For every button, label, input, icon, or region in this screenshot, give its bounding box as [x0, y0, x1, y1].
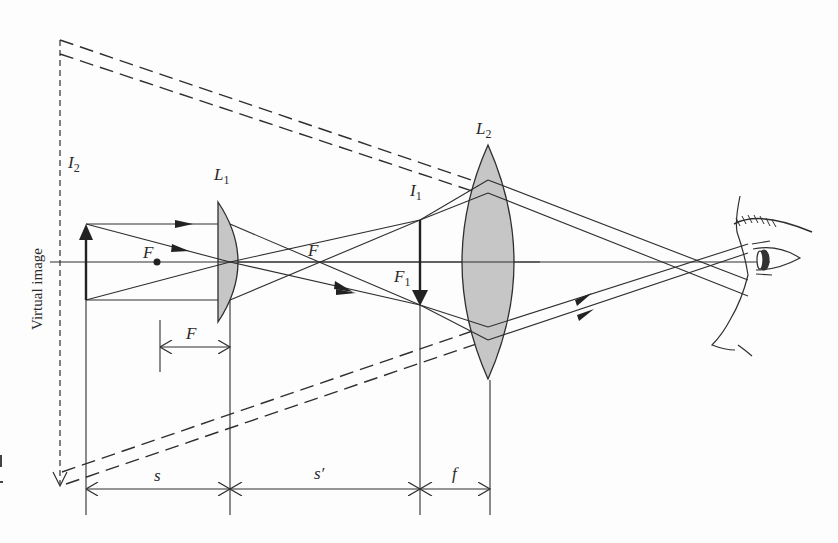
label-L2: L2	[476, 120, 491, 140]
label-F-mid: F	[308, 242, 318, 259]
eye-profile	[712, 196, 812, 356]
dashed-ray-bottom-1	[62, 326, 487, 472]
label-I2-sub: 2	[74, 161, 80, 175]
dashed-ray-top-1	[60, 40, 480, 183]
label-F1-main: F	[394, 267, 404, 286]
label-F1: F1	[394, 268, 410, 288]
label-I1-sub: 1	[416, 189, 422, 203]
ray-through-F	[86, 224, 230, 262]
virtual-image-label: Virtual image	[29, 248, 46, 330]
dashed-ray-top-2	[60, 54, 475, 192]
microscope-diagram: Virtual image I2 L1 L2 I1 F1 F F F s s′ …	[0, 0, 838, 543]
label-I2: I2	[68, 154, 80, 174]
label-F-dim: F	[186, 325, 196, 342]
object-arrowhead	[79, 224, 93, 240]
label-F-left: F	[143, 244, 153, 261]
label-L2-sub: 2	[485, 127, 491, 141]
label-F1-sub: 1	[404, 275, 410, 289]
label-L1: L1	[214, 166, 229, 186]
virtual-image-text: Virtual image	[29, 248, 45, 330]
label-s: s	[154, 467, 161, 484]
label-L1-sub: 1	[223, 173, 229, 187]
focal-point-dot	[154, 259, 161, 266]
diagram-canvas	[0, 0, 838, 543]
label-f: f	[452, 465, 457, 482]
dashed-ray-bottom-2	[66, 341, 485, 484]
label-s-prime: s′	[314, 465, 324, 482]
label-I1: I1	[410, 182, 422, 202]
